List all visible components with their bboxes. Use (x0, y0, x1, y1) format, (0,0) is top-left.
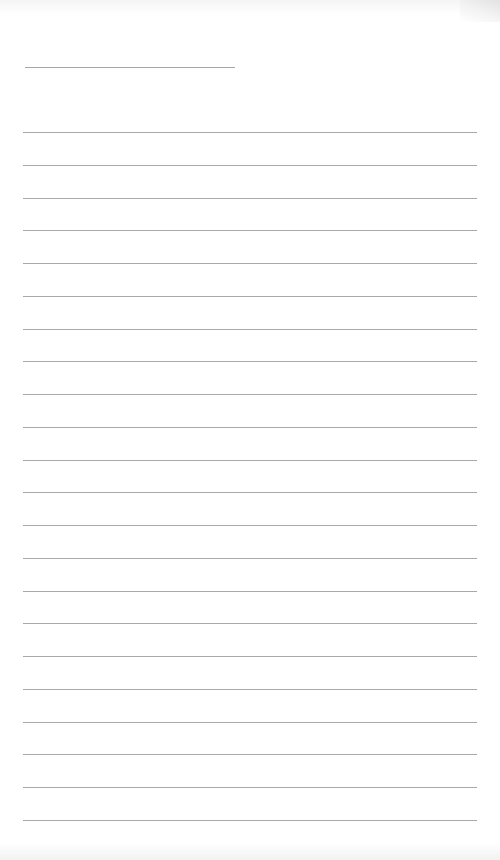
ruled-line (23, 296, 477, 297)
ruled-line (23, 329, 477, 330)
ruled-line (23, 525, 477, 526)
ruled-line (23, 165, 477, 166)
ruled-line (23, 787, 477, 788)
ruled-line (23, 460, 477, 461)
lined-paper-sheet (0, 0, 500, 860)
ruled-line (23, 656, 477, 657)
ruled-line (23, 361, 477, 362)
ruled-line (23, 820, 477, 821)
ruled-line (23, 754, 477, 755)
page-corner-shadow (460, 0, 500, 22)
ruled-line (23, 558, 477, 559)
ruled-line (23, 689, 477, 690)
ruled-line (23, 263, 477, 264)
ruled-line (23, 394, 477, 395)
ruled-line (23, 722, 477, 723)
name-line (25, 67, 235, 68)
ruled-line (23, 623, 477, 624)
ruled-line (23, 427, 477, 428)
ruled-line (23, 492, 477, 493)
ruled-line (23, 230, 477, 231)
ruled-line (23, 132, 477, 133)
ruled-line (23, 591, 477, 592)
ruled-line (23, 198, 477, 199)
